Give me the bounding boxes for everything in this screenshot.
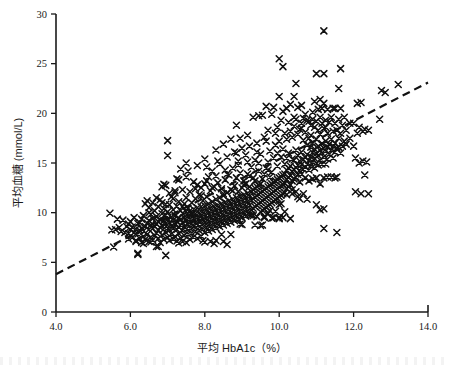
y-tick-label: 10 — [37, 207, 48, 218]
y-tick-label: 15 — [37, 158, 48, 169]
y-tick-label: 20 — [37, 108, 48, 119]
x-tick-label: 14.0 — [419, 321, 437, 332]
y-tick-label: 25 — [37, 58, 48, 69]
y-tick-label: 5 — [42, 257, 47, 268]
y-tick-label: 30 — [37, 9, 48, 20]
x-tick-label: 8.0 — [198, 321, 211, 332]
x-tick-label: 10.0 — [270, 321, 288, 332]
x-tick-label: 4.0 — [49, 321, 62, 332]
scatter-plot-figure: 4.06.08.010.012.014.0 051015202530 平均 Hb… — [0, 0, 449, 365]
chart-canvas: 4.06.08.010.012.014.0 051015202530 平均 Hb… — [0, 0, 449, 365]
x-tick-label: 6.0 — [124, 321, 137, 332]
x-tick-label: 12.0 — [344, 321, 362, 332]
x-axis-title: 平均 HbA1c（%） — [197, 342, 287, 354]
y-axis-title: 平均血糖 (mmol/L) — [11, 118, 24, 208]
y-tick-label: 0 — [42, 307, 47, 318]
chart-background — [0, 0, 449, 365]
cropped-caption-artifact — [0, 357, 449, 365]
